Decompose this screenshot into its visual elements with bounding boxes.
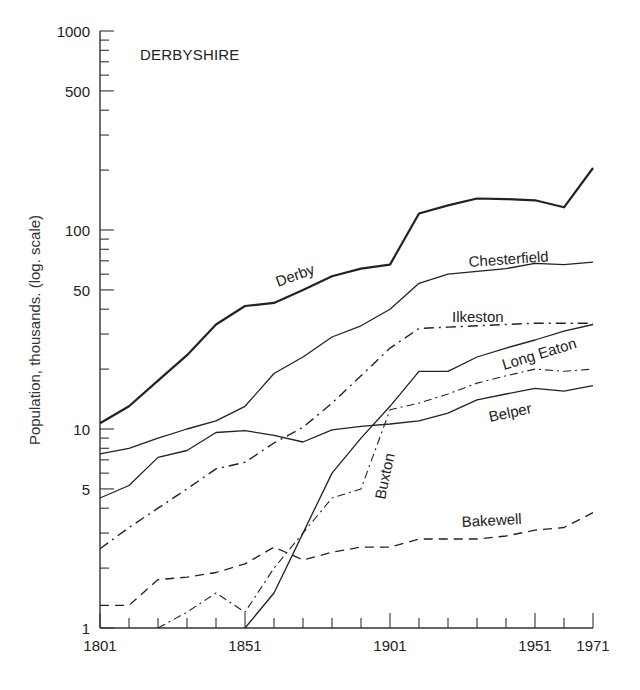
x-tick-label: 1951 — [518, 637, 551, 654]
x-tick-label: 1801 — [83, 637, 116, 654]
series-lines — [100, 168, 593, 628]
y-axis-title: Population, thousands. (log. scale) — [26, 215, 43, 445]
series-label-belper: Belper — [487, 399, 533, 425]
y-tick-label: 1 — [82, 620, 90, 637]
series-line-derby — [100, 168, 593, 423]
y-tick-label: 500 — [65, 83, 90, 100]
y-tick-label: 10 — [73, 421, 90, 438]
axes: 151050100500100018011851190119511971 — [57, 23, 610, 654]
y-tick-label: 50 — [73, 282, 90, 299]
series-label-buxton: Buxton — [371, 451, 397, 500]
population-chart: 151050100500100018011851190119511971 DER… — [0, 0, 640, 690]
y-tick-label: 100 — [65, 222, 90, 239]
series-label-bakewell: Bakewell — [461, 510, 522, 530]
x-tick-label: 1851 — [228, 637, 261, 654]
series-label-chesterfield: Chesterfield — [468, 247, 549, 270]
series-label-long-eaton: Long Eaton — [500, 334, 578, 373]
y-tick-label: 1000 — [57, 23, 90, 40]
y-tick-label: 5 — [82, 481, 90, 498]
x-tick-label: 1971 — [576, 637, 609, 654]
chart-title: DERBYSHIRE — [140, 46, 240, 63]
x-tick-label: 1901 — [373, 637, 406, 654]
series-label-ilkeston: Ilkeston — [452, 308, 504, 325]
